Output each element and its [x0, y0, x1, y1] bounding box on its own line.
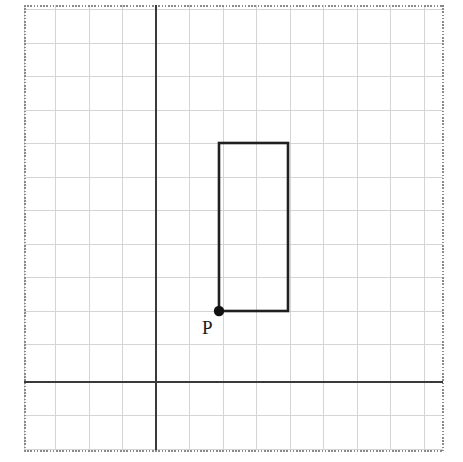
rectangle-shape — [219, 143, 288, 311]
coordinate-axes — [24, 5, 443, 450]
point-p-label: P — [202, 317, 213, 338]
dotted-frame — [24, 5, 443, 451]
grid-vertical-lines — [25, 5, 425, 450]
coordinate-grid-figure: P — [0, 0, 463, 462]
point-p-marker — [214, 306, 224, 316]
grid-horizontal-lines — [24, 10, 443, 450]
figure-canvas: P — [0, 0, 463, 462]
